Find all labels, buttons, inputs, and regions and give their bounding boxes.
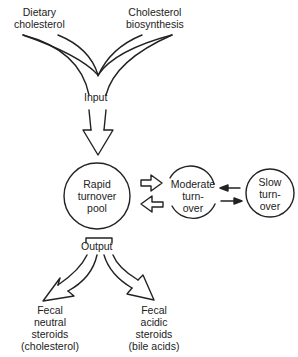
input-label: Input: [84, 91, 107, 103]
dietary-cholesterol-label: Dietarycholesterol: [14, 6, 65, 30]
acidic-output-arrow: [104, 255, 132, 288]
cholesterol-turnover-diagram: Dietarycholesterol Cholesterolbiosynthes…: [0, 0, 298, 357]
rapid-to-moderate-arrow: [141, 175, 162, 191]
output-label: Output: [81, 240, 113, 252]
moderate-to-rapid-arrow: [141, 196, 163, 212]
moderate-pool-label: Moderateturn-over: [167, 178, 219, 214]
biosynthesis-input-arrow: [98, 35, 172, 75]
fecal-neutral-steroids-label: Fecalneutralsteroids(cholesterol): [20, 304, 80, 352]
slow-pool-label: Slowturn-over: [252, 176, 288, 212]
rapid-pool-label: Rapidturnoverpool: [70, 178, 124, 214]
input-arrowhead: [83, 130, 113, 155]
moderate-to-slow-arrowhead: [234, 198, 242, 204]
slow-to-moderate-arrowhead: [220, 185, 228, 191]
cholesterol-biosynthesis-label: Cholesterolbiosynthesis: [126, 6, 184, 30]
fecal-acidic-steroids-label: Fecalacidicsteroids(bile acids): [126, 304, 182, 352]
